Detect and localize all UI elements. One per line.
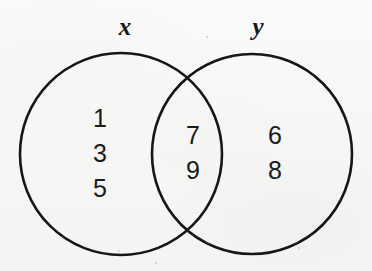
member-value: 8 <box>268 158 282 183</box>
set-label-y: y <box>238 14 278 39</box>
member-value: 6 <box>268 123 282 148</box>
member-value: 5 <box>93 176 107 201</box>
scan-speck <box>118 250 120 252</box>
member-value: 3 <box>93 141 107 166</box>
region-y-only-members: 6 8 <box>258 123 292 183</box>
set-label-x: x <box>105 14 145 39</box>
member-value: 1 <box>93 106 107 131</box>
region-x-only-members: 1 3 5 <box>83 106 117 201</box>
scan-speck <box>155 262 157 264</box>
member-value: 7 <box>186 123 200 148</box>
member-value: 9 <box>186 158 200 183</box>
scan-speck <box>298 247 300 249</box>
region-intersection-members: 7 9 <box>176 123 210 183</box>
venn-diagram-figure: x y 1 3 5 7 9 6 8 <box>0 0 372 271</box>
scan-speck <box>206 36 208 38</box>
